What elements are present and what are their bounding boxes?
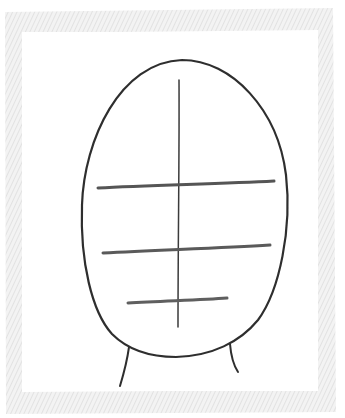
- sketch-canvas: [0, 0, 345, 418]
- inner-paper: [22, 32, 318, 391]
